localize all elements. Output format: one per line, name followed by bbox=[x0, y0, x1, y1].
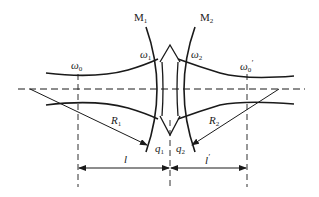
label-omega0-prime: ω0′ bbox=[240, 60, 253, 74]
label-omega1: ω1 bbox=[140, 49, 151, 62]
label-omega2-base: ω bbox=[191, 48, 199, 60]
label-m2-sub: 2 bbox=[210, 17, 214, 25]
label-m2-base: M bbox=[200, 11, 210, 23]
label-q1-sub: 1 bbox=[161, 148, 165, 156]
label-l-prime-mark: ′ bbox=[208, 153, 210, 162]
label-r2-base: R bbox=[209, 114, 216, 126]
label-m2: M2 bbox=[200, 12, 213, 25]
label-omega0-sub: 0 bbox=[79, 65, 83, 73]
label-r1-base: R bbox=[111, 114, 118, 126]
label-omega1-base: ω bbox=[140, 48, 148, 60]
gaussian-beam-diagram bbox=[0, 0, 319, 197]
radius-r2-arrow bbox=[192, 89, 279, 145]
label-omega1-sub: 1 bbox=[148, 54, 152, 62]
label-m1-sub: 1 bbox=[144, 17, 148, 25]
label-omega0: ω0 bbox=[71, 60, 82, 73]
label-r1: R1 bbox=[111, 115, 121, 128]
radius-r1-arrow bbox=[30, 89, 147, 145]
label-omega0-base: ω bbox=[71, 59, 79, 71]
label-l: l bbox=[124, 154, 127, 165]
label-r1-sub: 1 bbox=[118, 120, 122, 128]
lens-center-upper bbox=[160, 45, 180, 62]
label-omega2: ω2 bbox=[191, 49, 202, 62]
label-omega0-prime-base: ω bbox=[240, 60, 248, 72]
label-q2-sub: 2 bbox=[182, 148, 186, 156]
label-m1: M1 bbox=[134, 12, 147, 25]
label-m1-base: M bbox=[134, 11, 144, 23]
label-l-prime: l′ bbox=[205, 154, 210, 166]
label-r2-sub: 2 bbox=[216, 120, 220, 128]
label-l-base: l bbox=[124, 153, 127, 165]
label-q1: q1 bbox=[155, 143, 164, 156]
label-r2: R2 bbox=[209, 115, 219, 128]
label-omega0-prime-mark: ′ bbox=[251, 59, 253, 68]
label-q2: q2 bbox=[176, 143, 185, 156]
label-omega2-sub: 2 bbox=[199, 54, 203, 62]
